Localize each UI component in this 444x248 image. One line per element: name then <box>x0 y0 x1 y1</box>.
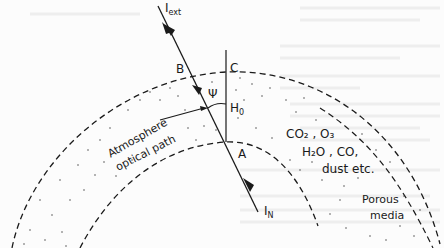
transmitted-intensity-label: IN <box>264 205 274 220</box>
incident-intensity-label: Iext <box>165 2 181 17</box>
porous-media-label-line1: Porous <box>362 194 399 205</box>
point-b-label: B <box>176 63 184 75</box>
point-c-label: C <box>230 62 238 74</box>
gases-label-line1: CO₂ , O₃ <box>286 128 334 140</box>
gases-label-line3: dust etc. <box>322 163 375 175</box>
angle-arc <box>208 104 226 109</box>
path-pointer-line <box>160 108 204 120</box>
porous-media-boundary <box>320 108 433 248</box>
atmosphere-optical-path-diagram: Iext B C Ψ H0 A Atmosphere optical path … <box>0 0 444 248</box>
height-label: H0 <box>230 102 244 117</box>
height-symbol: H <box>230 101 239 115</box>
gases-label-line2: H₂O , CO, <box>302 146 358 158</box>
transmitted-subscript: N <box>268 211 274 220</box>
incident-subscript: ext <box>169 8 182 17</box>
porous-media-label-line2: media <box>370 210 404 221</box>
angle-psi-label: Ψ <box>208 88 217 100</box>
height-subscript: 0 <box>239 108 244 117</box>
point-a-label: A <box>238 148 246 160</box>
